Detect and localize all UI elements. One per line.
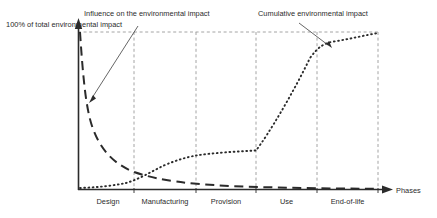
x-tick-label-use: Use — [256, 197, 317, 206]
x-tick-label-design: Design — [80, 197, 136, 206]
annotation-label-influence: Influence on the environmental impact — [84, 9, 210, 18]
x-tick-label-end-of-life: End-of-life — [317, 197, 378, 206]
annotation-label-cumulative: Cumulative environmental impact — [258, 9, 368, 18]
series-cumulative-curve — [80, 33, 378, 188]
chart-canvas — [0, 0, 437, 218]
x-tick-label-manufacturing: Manufacturing — [134, 197, 196, 206]
x-axis-title: Phases — [396, 186, 421, 195]
x-tick-label-provision: Provision — [196, 197, 256, 206]
environmental-impact-chart: 100% of total environmental impact Influ… — [0, 0, 437, 218]
annotation-arrowhead-influence — [89, 95, 96, 103]
x-axis-arrowhead — [382, 186, 393, 194]
y-axis-title: 100% of total environmental impact — [6, 20, 70, 29]
annotation-leader-cumulative — [299, 23, 328, 45]
series-influence-curve — [80, 32, 378, 189]
annotation-leader-influence — [92, 26, 138, 98]
